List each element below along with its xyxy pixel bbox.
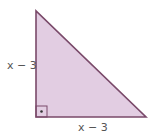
diagram-canvas: x − 3 x − 3: [0, 0, 152, 137]
right-triangle-diagram: x − 3 x − 3: [0, 0, 152, 137]
horizontal-leg-label: x − 3: [78, 121, 108, 134]
right-angle-dot: [40, 110, 43, 113]
triangle-shape: [36, 11, 146, 117]
vertical-leg-label: x − 3: [7, 59, 37, 72]
